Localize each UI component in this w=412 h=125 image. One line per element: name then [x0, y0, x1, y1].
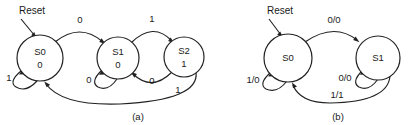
- transition-a-s1-s2: [131, 31, 174, 43]
- state-b-s1-name: S1: [372, 52, 384, 63]
- state-a-s0-name: S0: [34, 46, 46, 57]
- state-a-s0[interactable]: S0 0: [17, 35, 63, 81]
- state-b-s1[interactable]: S1: [356, 36, 400, 80]
- edge-label-b-s0-s1: 0/0: [327, 14, 340, 25]
- edge-label-b-s1-s0: 1/1: [330, 89, 343, 100]
- diagram-b: S0 S1 Reset 1/0 0/0 0/0 1/1 (b): [246, 5, 400, 122]
- state-b-s0-name: S0: [282, 52, 294, 63]
- caption-a: (a): [132, 111, 144, 122]
- state-a-s1-name: S1: [112, 46, 124, 57]
- state-b-s0[interactable]: S0: [264, 34, 312, 82]
- transition-b-s0-s1: [305, 31, 360, 42]
- fsm-canvas: S0 0 S1 0 S2 1 Reset 1 0 0 1 0 1 (a): [0, 0, 412, 125]
- state-a-s2-output: 1: [181, 58, 186, 69]
- transition-a-s0-s1: [55, 32, 106, 44]
- fsm-figure: S0 0 S1 0 S2 1 Reset 1 0 0 1 0 1 (a): [0, 0, 412, 125]
- edge-label-a-s1-s2: 1: [149, 13, 154, 24]
- edge-label-a-s0-self: 1: [6, 72, 11, 83]
- reset-label-b: Reset: [267, 5, 293, 16]
- edge-label-b-s1-self: 0/0: [338, 72, 351, 83]
- state-a-s1-output: 0: [115, 59, 120, 70]
- state-a-s0-output: 0: [37, 59, 42, 70]
- diagram-a: S0 0 S1 0 S2 1 Reset 1 0 0 1 0 1 (a): [6, 5, 204, 122]
- edge-label-a-s2-s1: 0: [149, 75, 154, 86]
- edge-label-b-s0-self: 1/0: [246, 74, 259, 85]
- caption-b: (b): [332, 111, 344, 122]
- edge-label-a-s1-self: 0: [86, 74, 91, 85]
- edge-label-a-s0-s1: 0: [77, 14, 82, 25]
- state-a-s2[interactable]: S2 1: [164, 37, 204, 77]
- state-a-s2-name: S2: [178, 45, 190, 56]
- reset-label-a: Reset: [19, 5, 45, 16]
- edge-label-a-s2-s0: 1: [175, 84, 180, 95]
- state-a-s1[interactable]: S1 0: [97, 37, 139, 79]
